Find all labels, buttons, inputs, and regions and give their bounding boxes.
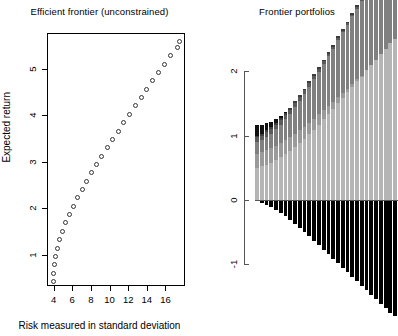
scatter-point xyxy=(63,220,68,225)
stacked-bar xyxy=(327,55,331,287)
stacked-bar xyxy=(336,55,340,287)
bar-segment xyxy=(279,120,283,125)
bar-segment xyxy=(265,123,269,130)
bar-segment xyxy=(260,152,264,166)
scatter-point xyxy=(53,254,58,259)
bar-segment xyxy=(274,200,278,210)
bar-segment xyxy=(327,54,331,57)
stacked-bar xyxy=(346,55,350,287)
left-x-tick xyxy=(91,285,92,291)
bar-segment xyxy=(350,87,354,200)
bar-segment xyxy=(322,64,326,110)
bar-segment xyxy=(346,22,350,24)
stacked-bar xyxy=(269,55,273,287)
efficient-frontier-plot-area: 12345 46810121416 xyxy=(47,33,185,286)
bar-segment xyxy=(331,102,335,109)
bar-segment xyxy=(384,0,388,49)
stacked-bar xyxy=(312,55,316,287)
left-x-tick xyxy=(110,285,111,291)
left-y-tick-label: 3 xyxy=(28,153,38,171)
scatter-point xyxy=(51,271,56,276)
bar-segment xyxy=(284,113,288,115)
stacked-bar xyxy=(379,55,383,287)
bar-segment xyxy=(298,101,302,131)
bar-segment xyxy=(260,140,264,152)
bar-segment xyxy=(327,106,331,114)
bar-segment xyxy=(303,89,307,91)
bar-segment xyxy=(303,94,307,127)
zero-baseline xyxy=(255,200,398,201)
scatter-point xyxy=(75,195,80,200)
scatter-point xyxy=(144,87,149,92)
bar-segment xyxy=(336,40,340,97)
bar-segment xyxy=(255,125,259,136)
bar-segment xyxy=(341,32,345,93)
bar-segment xyxy=(260,134,264,136)
bar-segment xyxy=(265,137,269,151)
frontier-portfolios-plot-area: 210-1 xyxy=(255,55,398,287)
bar-segment xyxy=(360,200,364,286)
left-x-axis-label: Risk measured in standard deviation xyxy=(0,320,199,331)
bar-segment xyxy=(279,125,283,144)
left-y-tick xyxy=(42,162,48,163)
scatter-point xyxy=(99,154,104,159)
left-y-tick-label: 4 xyxy=(28,106,38,124)
stacked-bar xyxy=(331,55,335,287)
bar-segment xyxy=(274,146,278,160)
bar-segment xyxy=(269,134,273,149)
stacked-bar xyxy=(369,55,373,287)
scatter-point xyxy=(133,103,138,108)
bar-segment xyxy=(255,136,259,138)
bar-segment xyxy=(322,60,326,62)
left-x-tick xyxy=(147,285,148,291)
bar-segment xyxy=(336,36,340,38)
left-x-tick-label: 8 xyxy=(81,295,101,305)
left-y-tick-label: 1 xyxy=(28,246,38,264)
bar-segment xyxy=(374,0,378,60)
left-x-tick xyxy=(128,285,129,291)
bar-segment xyxy=(346,23,350,24)
bar-segment xyxy=(260,125,264,134)
scatter-point xyxy=(139,95,144,100)
stacked-bar xyxy=(293,55,297,287)
bar-segment xyxy=(365,0,369,70)
bar-segment xyxy=(360,1,364,76)
bar-segment xyxy=(284,119,288,140)
bar-segment xyxy=(355,200,359,281)
stacked-bar xyxy=(279,55,283,287)
stacked-bar xyxy=(322,55,326,287)
scatter-point xyxy=(177,39,182,44)
bar-segment xyxy=(327,52,331,54)
bar-segment xyxy=(317,200,321,245)
bar-segment xyxy=(288,114,292,138)
bar-segment xyxy=(379,0,383,54)
bar-segment xyxy=(284,115,288,119)
bar-segment xyxy=(369,65,373,200)
bar-segment xyxy=(322,200,326,250)
left-x-tick-label: 12 xyxy=(118,295,138,305)
stacked-bar xyxy=(260,55,264,287)
scatter-point xyxy=(80,187,85,192)
scatter-point xyxy=(156,70,161,75)
bar-segment xyxy=(284,154,288,200)
bar-segment xyxy=(284,200,288,216)
bar-segment xyxy=(269,200,273,207)
bar-segment xyxy=(288,200,292,220)
bar-segment xyxy=(307,87,311,123)
left-x-tick-label: 6 xyxy=(62,295,82,305)
stacked-bar xyxy=(384,55,388,287)
bar-segment xyxy=(322,119,326,200)
bar-segment xyxy=(350,200,354,277)
stacked-bar xyxy=(365,55,369,287)
bar-segment xyxy=(355,9,359,80)
bar-segment xyxy=(293,200,297,224)
stacked-bar xyxy=(255,55,259,287)
bar-segment xyxy=(341,93,345,98)
bar-segment xyxy=(341,200,345,268)
stacked-bar xyxy=(317,55,321,287)
bar-segment xyxy=(293,134,297,148)
bar-segment xyxy=(350,16,354,84)
bar-segment xyxy=(365,70,369,200)
bar-segment xyxy=(336,97,340,103)
stacked-bar xyxy=(288,55,292,287)
